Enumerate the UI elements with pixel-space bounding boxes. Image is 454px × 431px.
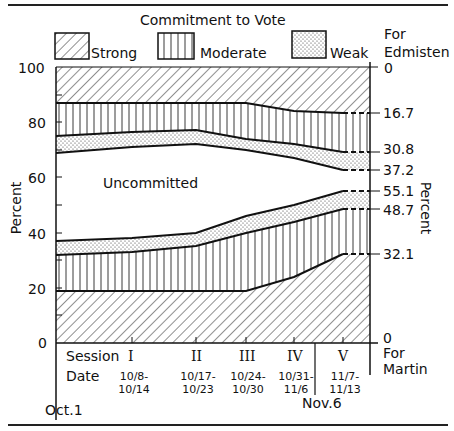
- session-ii: II: [191, 348, 202, 364]
- right-tick-48-7: 48.7: [383, 202, 414, 218]
- date-i: 10/8- 10/14: [114, 370, 154, 396]
- session-iv: IV: [287, 348, 303, 364]
- right-tick-30-8: 30.8: [383, 141, 414, 157]
- oct1-label: Oct.1: [45, 402, 83, 418]
- legend-weak-label: Weak: [330, 45, 368, 61]
- y-tick-100: 100: [18, 60, 45, 76]
- date-ii-start: 10/17-: [178, 370, 218, 383]
- legend-strong-label: Strong: [91, 45, 137, 61]
- y-tick-60: 60: [28, 170, 46, 186]
- date-v-start: 11/7-: [325, 370, 365, 383]
- date-v: 11/7- 11/13: [325, 370, 365, 396]
- y-tick-80: 80: [28, 115, 46, 131]
- session-v: V: [338, 348, 348, 364]
- right-tick-55-1: 55.1: [383, 183, 414, 199]
- session-row-label: Session: [66, 348, 119, 364]
- legend-moderate-swatch: [158, 33, 194, 59]
- y-tick-40: 40: [28, 226, 46, 242]
- for-edmisten-label-2: Edmisten: [384, 44, 450, 60]
- session-iii: III: [239, 348, 256, 364]
- date-iii-end: 10/30: [228, 383, 268, 396]
- for-martin-label-2: Martin: [383, 361, 428, 377]
- right-tick-32-1: 32.1: [383, 246, 414, 262]
- legend-strong-swatch: [55, 33, 89, 59]
- right-zero-top: 0: [384, 60, 393, 76]
- for-martin-label-1: For: [383, 345, 405, 361]
- date-ii: 10/17- 10/23: [178, 370, 218, 396]
- y-axis-label-left: Percent: [8, 182, 24, 235]
- date-i-end: 10/14: [114, 383, 154, 396]
- right-tick-16-7: 16.7: [383, 105, 414, 121]
- y-tick-20: 20: [28, 281, 46, 297]
- date-iii-start: 10/24-: [228, 370, 268, 383]
- date-i-start: 10/8-: [114, 370, 154, 383]
- date-iv-start: 10/31-: [276, 370, 316, 383]
- chart-title: Commitment to Vote: [140, 12, 286, 28]
- y-axis-label-right: Percent: [418, 182, 434, 235]
- session-i: I: [128, 348, 134, 364]
- right-tick-37-2: 37.2: [383, 162, 414, 178]
- legend-moderate-label: Moderate: [200, 45, 267, 61]
- for-edmisten-label-1: For: [384, 26, 406, 42]
- right-zero-bottom: 0: [383, 330, 392, 346]
- date-iv: 10/31- 11/6: [276, 370, 316, 396]
- legend-weak-swatch: [292, 31, 326, 58]
- uncommitted-label: Uncommitted: [103, 175, 198, 191]
- date-iii: 10/24- 10/30: [228, 370, 268, 396]
- nov6-label: Nov.6: [302, 395, 342, 411]
- date-ii-end: 10/23: [178, 383, 218, 396]
- y-tick-0: 0: [38, 335, 47, 351]
- date-row-label: Date: [66, 368, 99, 384]
